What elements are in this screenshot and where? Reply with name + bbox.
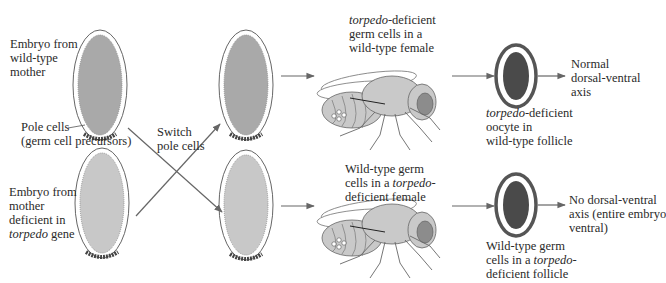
fly-top-wild-type-female xyxy=(317,66,440,150)
fly-bottom-torpedo-deficient-female xyxy=(317,194,440,278)
label-fly-top: torpedo-deficient germ cells in a wild-t… xyxy=(349,13,436,55)
label-embryo-torpedo-mother: Embryo frommotherdeficient in torpedo ge… xyxy=(9,185,77,241)
follicle-bottom xyxy=(496,174,536,236)
label-embryo-wild-type-mother: Embryo fromwild-typemother xyxy=(10,37,78,79)
embryo-bottom-switched xyxy=(219,150,273,260)
label-result-top: Normaldorsal-ventralaxis xyxy=(571,57,640,99)
label-follicle-bottom: Wild-type germ cells in a torpedo- defic… xyxy=(486,239,577,281)
label-pole-cells: Pole cells(germ cell precursors) xyxy=(21,120,131,148)
label-follicle-top: torpedo-deficient oocyte in wild-type fo… xyxy=(486,106,573,148)
follicle-top xyxy=(496,45,536,107)
label-switch-pole-cells: Switchpole cells xyxy=(157,125,205,153)
embryo-torpedo-deficient-mother xyxy=(75,148,129,258)
embryo-top-switched xyxy=(219,30,273,140)
label-result-bottom: No dorsal-ventralaxis (entire embryovent… xyxy=(569,193,666,235)
label-fly-bottom: Wild-type germ cells in a torpedo- defic… xyxy=(345,162,436,204)
